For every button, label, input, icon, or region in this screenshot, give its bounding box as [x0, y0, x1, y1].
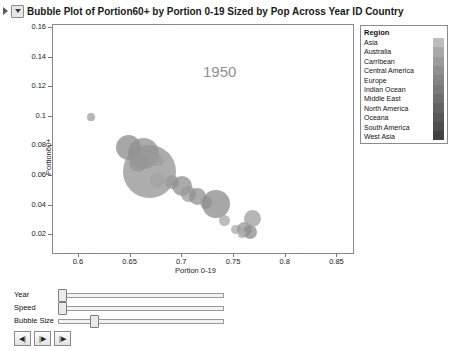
legend: Region AsiaAustraliaCarribeanCentral Ame… [360, 25, 448, 144]
play-button[interactable]: |▶ [34, 331, 51, 346]
legend-color-swatch [433, 103, 444, 112]
legend-items[interactable]: AsiaAustraliaCarribeanCentral AmericaEur… [361, 38, 433, 143]
x-axis-tick-mark [181, 253, 182, 257]
bubble-size-label: Bubble Size [14, 316, 58, 325]
y-axis-tick-label: 0.14 [18, 52, 46, 61]
window-titlebar: Bubble Plot of Portion60+ by Portion 0-1… [0, 4, 451, 18]
year-annotation: 1950 [203, 63, 236, 80]
speed-slider-track[interactable] [58, 306, 224, 311]
speed-label: Speed [14, 303, 58, 312]
bubble-point[interactable] [238, 230, 246, 238]
legend-item[interactable]: Europe [364, 76, 433, 85]
year-label: Year [14, 290, 58, 299]
step-forward-button-glyph: |▶ [59, 335, 66, 342]
speed-control-row: Speed [14, 301, 224, 314]
x-axis-tick-mark [233, 253, 234, 257]
legend-color-ramp [433, 38, 444, 140]
legend-color-swatch [433, 131, 444, 140]
y-axis-tick-mark [48, 57, 52, 58]
legend-color-swatch [433, 57, 444, 66]
x-axis-tick-mark [285, 253, 286, 257]
legend-color-swatch [433, 122, 444, 131]
bubble-point[interactable] [219, 215, 230, 226]
bubble-size-control-row: Bubble Size [14, 314, 224, 327]
legend-item[interactable]: Middle East [364, 94, 433, 103]
legend-title: Region [361, 26, 447, 38]
bubble-size-slider-track[interactable] [58, 319, 224, 324]
y-axis-tick-mark [48, 234, 52, 235]
legend-color-swatch [433, 66, 444, 75]
step-forward-button[interactable]: |▶ [54, 331, 71, 346]
x-axis-tick-label: 0.65 [117, 257, 143, 266]
x-axis-tick-label: 0.8 [272, 257, 298, 266]
legend-item[interactable]: Asia [364, 38, 433, 47]
y-axis-tick-mark [48, 205, 52, 206]
legend-color-swatch [433, 113, 444, 122]
legend-color-swatch [433, 85, 444, 94]
legend-item[interactable]: Central America [364, 66, 433, 75]
legend-item[interactable]: Oceana [364, 113, 433, 122]
plot-area: 1950 [52, 24, 354, 254]
x-axis-tick-label: 0.6 [65, 257, 91, 266]
x-axis-tick-mark [130, 253, 131, 257]
year-control-row: Year [14, 288, 224, 301]
y-axis-tick-mark [48, 27, 52, 28]
red-triangle-menu-icon[interactable] [11, 5, 24, 18]
bubble-size-slider[interactable] [58, 314, 224, 327]
legend-color-swatch [433, 47, 444, 56]
y-axis-tick-mark [48, 116, 52, 117]
y-axis-tick-label: 0.12 [18, 81, 46, 90]
playback-button-row: ◀||▶|▶ [14, 331, 224, 346]
legend-color-swatch [433, 38, 444, 47]
y-axis-tick-label: 0.02 [18, 229, 46, 238]
y-axis-tick-label: 0.1 [18, 111, 46, 120]
legend-item[interactable]: Australia [364, 47, 433, 56]
y-axis-tick-label: 0.04 [18, 200, 46, 209]
x-axis-tick-label: 0.7 [168, 257, 194, 266]
step-back-button[interactable]: ◀| [14, 331, 31, 346]
legend-color-swatch [433, 75, 444, 84]
page-title: Bubble Plot of Portion60+ by Portion 0-1… [27, 6, 403, 17]
y-axis-tick-mark [48, 86, 52, 87]
triangle-right-icon[interactable] [3, 7, 8, 15]
y-axis-tick-mark [48, 175, 52, 176]
x-axis-label: Portion 0-19 [175, 266, 216, 275]
bubble-point[interactable] [244, 210, 261, 227]
y-axis-tick-label: 0.06 [18, 170, 46, 179]
legend-item[interactable]: North America [364, 104, 433, 113]
y-axis-label: Portion60+ [44, 139, 53, 176]
year-slider-track[interactable] [58, 293, 224, 298]
legend-item[interactable]: Indian Ocean [364, 85, 433, 94]
bubble-point[interactable] [202, 190, 230, 218]
y-axis-tick-label: 0.16 [18, 22, 46, 31]
bubble-point[interactable] [87, 113, 95, 121]
x-axis-tick-label: 0.85 [323, 257, 349, 266]
app-root: Bubble Plot of Portion60+ by Portion 0-1… [0, 0, 451, 351]
legend-item[interactable]: West Asia [364, 132, 433, 141]
year-slider[interactable] [58, 288, 224, 301]
legend-item[interactable]: South America [364, 123, 433, 132]
animation-controls: Year Speed Bubble Size ◀||▶|▶ [14, 288, 224, 346]
y-axis-tick-label: 0.08 [18, 140, 46, 149]
legend-color-swatch [433, 94, 444, 103]
x-axis-tick-label: 0.75 [220, 257, 246, 266]
step-back-button-glyph: ◀| [19, 335, 26, 342]
legend-item[interactable]: Carribean [364, 57, 433, 66]
x-axis-tick-mark [78, 253, 79, 257]
bubble-size-slider-thumb[interactable] [90, 315, 99, 328]
play-button-glyph: |▶ [39, 335, 46, 342]
x-axis-tick-mark [336, 253, 337, 257]
speed-slider[interactable] [58, 301, 224, 314]
